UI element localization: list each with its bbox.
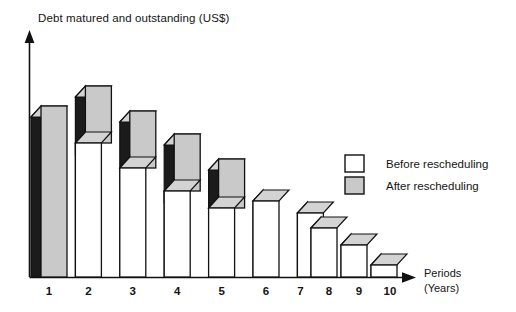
- bar-after-period-1: [41, 106, 67, 277]
- bar-before-period-5: [209, 208, 235, 277]
- bar-before-period-3: [120, 168, 146, 277]
- legend-label-after: After rescheduling: [386, 180, 479, 192]
- x-tick-label-9: 9: [356, 285, 362, 297]
- bar-before-period-4: [164, 191, 190, 277]
- chart-canvas: Debt matured and outstanding (US$): [0, 0, 516, 312]
- x-tick-label-10: 10: [384, 285, 397, 297]
- bar-group-period-1: [31, 106, 67, 277]
- grey-square-swatch: [345, 177, 364, 194]
- x-tick-label-7: 7: [297, 285, 303, 297]
- x-tick-label-5: 5: [218, 285, 225, 297]
- legend-label-before: Before rescheduling: [386, 158, 488, 170]
- bar-before-period-9: [341, 245, 367, 277]
- bar-before-period-10: [371, 265, 397, 277]
- bar-before-period-6: [253, 201, 279, 277]
- chart-title: Debt matured and outstanding (US$): [38, 12, 229, 24]
- x-axis-label-line-1: Periods: [424, 267, 462, 279]
- x-axis-label-line-2: (Years): [424, 282, 459, 294]
- x-tick-label-8: 8: [326, 285, 333, 297]
- x-tick-label-2: 2: [85, 285, 91, 297]
- x-tick-label-3: 3: [130, 285, 136, 297]
- bar-before-period-2: [75, 143, 101, 277]
- white-square-swatch: [345, 155, 364, 172]
- x-tick-label-1: 1: [46, 285, 53, 297]
- bar-before-period-8: [311, 228, 337, 277]
- x-tick-label-6: 6: [263, 285, 269, 297]
- x-tick-label-4: 4: [174, 285, 181, 297]
- debt-rescheduling-bar-chart: Debt matured and outstanding (US$): [0, 0, 516, 312]
